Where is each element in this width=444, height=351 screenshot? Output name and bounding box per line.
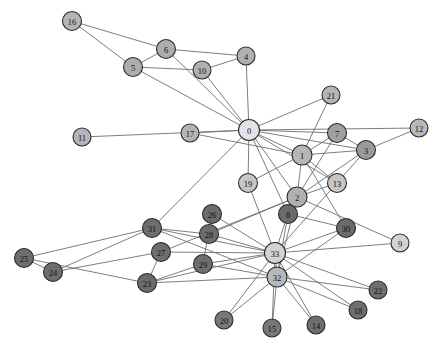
graph-edge	[275, 243, 400, 253]
node-circle-16[interactable]	[63, 12, 82, 31]
graph-node-5[interactable]: 5	[124, 58, 143, 77]
node-circle-31[interactable]	[143, 219, 162, 238]
node-circle-19[interactable]	[239, 174, 258, 193]
graph-edge	[275, 253, 378, 290]
node-circle-17[interactable]	[181, 124, 199, 142]
node-circle-5[interactable]	[124, 58, 143, 77]
node-circle-4[interactable]	[237, 47, 255, 65]
node-circle-26[interactable]	[203, 205, 222, 224]
node-circle-21[interactable]	[322, 86, 340, 104]
graph-edge	[133, 67, 249, 130]
node-circle-11[interactable]	[73, 128, 91, 146]
node-circle-10[interactable]	[193, 61, 211, 79]
graph-edge	[161, 252, 275, 253]
node-circle-13[interactable]	[328, 174, 347, 193]
network-graph-svg: 0123456789101112131415161718192021222324…	[0, 0, 444, 351]
graph-node-28[interactable]: 28	[200, 225, 219, 244]
graph-node-2[interactable]: 2	[287, 187, 307, 207]
graph-edge	[166, 49, 249, 130]
edges-layer	[24, 21, 419, 328]
graph-node-6[interactable]: 6	[157, 40, 176, 59]
graph-edge	[24, 228, 152, 258]
graph-node-10[interactable]: 10	[193, 61, 211, 79]
node-circle-27[interactable]	[152, 243, 171, 262]
node-circle-6[interactable]	[157, 40, 176, 59]
graph-node-14[interactable]: 14	[307, 316, 325, 334]
graph-edge	[166, 49, 246, 56]
graph-node-0[interactable]: 0	[239, 120, 260, 141]
node-circle-9[interactable]	[391, 234, 409, 252]
graph-edge	[248, 183, 275, 253]
graph-edge	[72, 21, 133, 67]
node-circle-7[interactable]	[328, 124, 347, 143]
graph-node-25[interactable]: 25	[15, 249, 34, 268]
graph-edge	[72, 21, 166, 49]
node-circle-18[interactable]	[349, 301, 367, 319]
node-circle-23[interactable]	[138, 274, 157, 293]
node-circle-0[interactable]	[239, 120, 260, 141]
graph-node-9[interactable]: 9	[391, 234, 409, 252]
graph-node-31[interactable]: 31	[143, 219, 162, 238]
graph-edge	[152, 130, 249, 228]
graph-edge	[249, 95, 331, 130]
graph-node-30[interactable]: 30	[337, 219, 356, 238]
graph-node-11[interactable]: 11	[73, 128, 91, 146]
graph-node-24[interactable]: 24	[44, 263, 63, 282]
graph-edge	[246, 56, 249, 130]
graph-node-4[interactable]: 4	[237, 47, 255, 65]
graph-edge	[147, 277, 277, 283]
node-circle-12[interactable]	[410, 119, 428, 137]
node-circle-29[interactable]	[194, 255, 213, 274]
graph-edge	[133, 67, 202, 70]
graph-node-12[interactable]: 12	[410, 119, 428, 137]
network-graph-canvas: 0123456789101112131415161718192021222324…	[0, 0, 444, 351]
node-circle-2[interactable]	[287, 187, 307, 207]
node-circle-33[interactable]	[265, 243, 286, 264]
graph-node-22[interactable]: 22	[369, 281, 387, 299]
node-circle-3[interactable]	[357, 141, 376, 160]
node-circle-20[interactable]	[215, 311, 233, 329]
graph-node-32[interactable]: 32	[267, 267, 287, 287]
graph-node-15[interactable]: 15	[263, 319, 281, 337]
graph-node-1[interactable]: 1	[292, 145, 312, 165]
node-circle-14[interactable]	[307, 316, 325, 334]
node-circle-22[interactable]	[369, 281, 387, 299]
node-circle-24[interactable]	[44, 263, 63, 282]
graph-node-20[interactable]: 20	[215, 311, 233, 329]
node-circle-8[interactable]	[279, 205, 298, 224]
node-circle-15[interactable]	[263, 319, 281, 337]
graph-node-8[interactable]: 8	[279, 205, 298, 224]
graph-node-7[interactable]: 7	[328, 124, 347, 143]
graph-node-23[interactable]: 23	[138, 274, 157, 293]
graph-node-16[interactable]: 16	[63, 12, 82, 31]
node-circle-28[interactable]	[200, 225, 219, 244]
graph-edge	[24, 258, 147, 283]
graph-edge	[203, 264, 277, 277]
node-circle-30[interactable]	[337, 219, 356, 238]
graph-node-21[interactable]: 21	[322, 86, 340, 104]
node-circle-1[interactable]	[292, 145, 312, 165]
graph-edge	[202, 70, 249, 130]
node-circle-25[interactable]	[15, 249, 34, 268]
graph-node-3[interactable]: 3	[357, 141, 376, 160]
graph-node-19[interactable]: 19	[239, 174, 258, 193]
node-circle-32[interactable]	[267, 267, 287, 287]
graph-edge	[53, 228, 152, 272]
graph-node-27[interactable]: 27	[152, 243, 171, 262]
graph-node-17[interactable]: 17	[181, 124, 199, 142]
graph-node-13[interactable]: 13	[328, 174, 347, 193]
graph-node-33[interactable]: 33	[265, 243, 286, 264]
graph-edge	[53, 252, 161, 272]
graph-node-26[interactable]: 26	[203, 205, 222, 224]
graph-node-18[interactable]: 18	[349, 301, 367, 319]
graph-node-29[interactable]: 29	[194, 255, 213, 274]
